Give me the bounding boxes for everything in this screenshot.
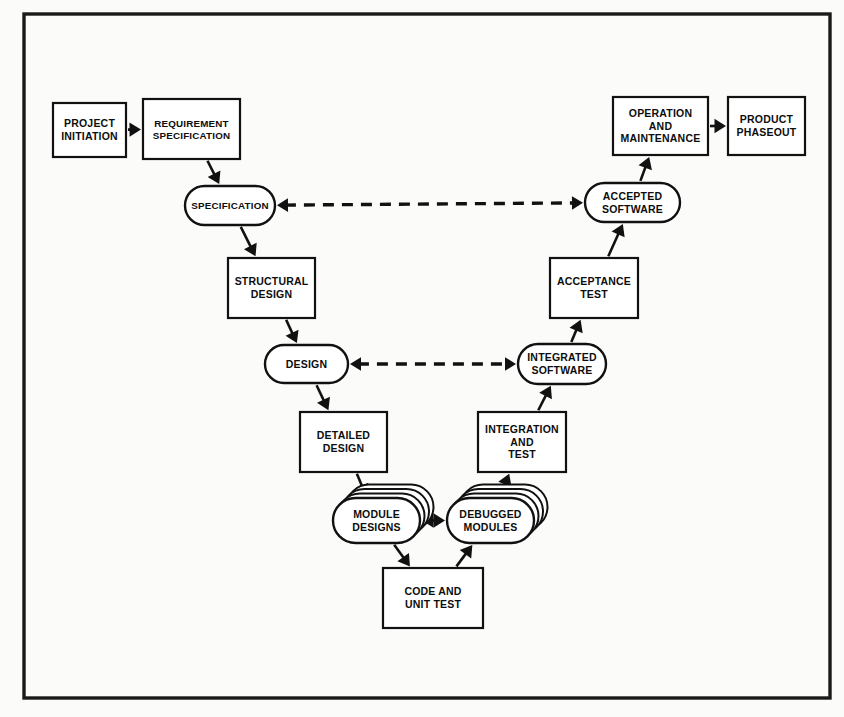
node-label-code-unit-test: CODE ANDUNIT TEST — [404, 585, 461, 610]
node-integration-and-test[interactable]: INTEGRATIONANDTEST — [478, 412, 566, 472]
node-label-module-designs: MODULEDESIGNS — [352, 508, 401, 533]
node-label-product-phaseout: PRODUCTPHASEOUT — [737, 113, 797, 138]
node-acceptance-test[interactable]: ACCEPTANCETEST — [550, 258, 638, 318]
node-label-accepted-software: ACCEPTEDSOFTWARE — [602, 190, 663, 215]
node-integrated-software[interactable]: INTEGRATEDSOFTWARE — [518, 344, 606, 384]
node-label-integrated-software: INTEGRATEDSOFTWARE — [527, 351, 597, 376]
diagram-page: PROJECTINITIATIONREQUIREMENTSPECIFICATIO… — [0, 0, 844, 717]
node-project-initiation[interactable]: PROJECTINITIATION — [53, 103, 126, 157]
node-specification[interactable]: SPECIFICATION — [185, 186, 275, 225]
node-label-project-initiation: PROJECTINITIATION — [61, 117, 118, 142]
node-requirement-spec[interactable]: REQUIREMENTSPECIFICATION — [143, 99, 240, 159]
v-model-diagram: PROJECTINITIATIONREQUIREMENTSPECIFICATIO… — [0, 0, 844, 717]
node-label-specification: SPECIFICATION — [191, 200, 269, 211]
node-structural-design[interactable]: STRUCTURALDESIGN — [228, 258, 315, 318]
node-label-requirement-spec: REQUIREMENTSPECIFICATION — [153, 118, 231, 141]
node-accepted-software[interactable]: ACCEPTEDSOFTWARE — [585, 183, 680, 222]
node-label-debugged-modules: DEBUGGEDMODULES — [459, 508, 521, 533]
node-label-design: DESIGN — [286, 358, 327, 370]
node-detailed-design[interactable]: DETAILEDDESIGN — [300, 412, 387, 472]
node-code-unit-test[interactable]: CODE ANDUNIT TEST — [383, 568, 483, 628]
node-design[interactable]: DESIGN — [265, 345, 348, 383]
node-label-detailed-design: DETAILEDDESIGN — [317, 429, 371, 454]
node-operation-maintenance[interactable]: OPERATIONANDMAINTENANCE — [613, 97, 708, 155]
node-product-phaseout[interactable]: PRODUCTPHASEOUT — [728, 97, 805, 155]
